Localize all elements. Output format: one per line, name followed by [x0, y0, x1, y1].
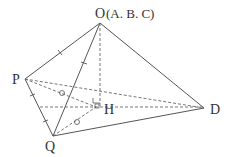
edge-OD [100, 23, 204, 108]
pyramid-diagram: O (A. B. C) P Q D H [0, 0, 232, 157]
edge-PQ [25, 79, 53, 136]
label-O-note: (A. B. C) [106, 6, 154, 21]
label-P: P [12, 72, 20, 87]
edge-PH [25, 79, 96, 107]
edge-QD [53, 108, 204, 136]
label-H: H [104, 102, 114, 117]
label-D: D [210, 102, 220, 117]
right-angle-mark [93, 98, 100, 103]
label-O: O [95, 6, 105, 21]
label-Q: Q [45, 139, 55, 154]
edge-PD [25, 79, 204, 108]
circle-mark-QH [75, 120, 80, 125]
